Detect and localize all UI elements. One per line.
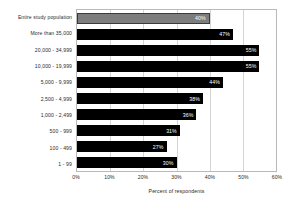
category-label: More than 35,000 bbox=[0, 25, 76, 41]
bar-value-label: 47% bbox=[219, 31, 233, 37]
bar-value-label: 38% bbox=[189, 96, 203, 102]
bar: 30% bbox=[77, 157, 177, 168]
category-label: 10,000 - 19,999 bbox=[0, 58, 76, 74]
x-axis-tick: 40% bbox=[205, 174, 216, 180]
bar-row: 40% bbox=[77, 10, 276, 26]
x-axis-title: Percent of respondents bbox=[76, 188, 277, 194]
category-label: Entire study population bbox=[0, 9, 76, 25]
plot-area: 40%47%55%55%44%38%36%31%27%30% bbox=[76, 9, 277, 172]
bar-row: 27% bbox=[77, 139, 276, 155]
category-label: 5,000 - 9,999 bbox=[0, 74, 76, 90]
bar-row: 55% bbox=[77, 58, 276, 74]
x-axis-tick: 50% bbox=[238, 174, 249, 180]
bar: 27% bbox=[77, 141, 167, 152]
bar: 40% bbox=[77, 13, 210, 24]
category-label: 20,000 - 34,999 bbox=[0, 42, 76, 58]
bar-row: 30% bbox=[77, 155, 276, 171]
bar-row: 44% bbox=[77, 74, 276, 90]
bar-value-label: 55% bbox=[246, 63, 260, 69]
bar-row: 38% bbox=[77, 90, 276, 106]
x-axis-tick: 60% bbox=[272, 174, 283, 180]
category-label: 2,500 - 4,999 bbox=[0, 90, 76, 106]
bar: 55% bbox=[77, 61, 259, 72]
category-axis-labels: Entire study populationMore than 35,0002… bbox=[0, 9, 76, 172]
bar-value-label: 36% bbox=[183, 112, 197, 118]
bar-row: 31% bbox=[77, 123, 276, 139]
bar-value-label: 40% bbox=[195, 15, 209, 21]
x-axis-tick: 0% bbox=[72, 174, 80, 180]
bar-row: 55% bbox=[77, 42, 276, 58]
bar-series: 40%47%55%55%44%38%36%31%27%30% bbox=[77, 10, 276, 171]
bar-chart: Entire study populationMore than 35,0002… bbox=[0, 0, 294, 209]
bar: 55% bbox=[77, 45, 259, 56]
bar: 47% bbox=[77, 29, 233, 40]
x-axis-tick: 30% bbox=[171, 174, 182, 180]
bar: 31% bbox=[77, 125, 180, 136]
category-label: 100 - 499 bbox=[0, 139, 76, 155]
bar-value-label: 55% bbox=[246, 47, 260, 53]
x-axis-tick: 20% bbox=[138, 174, 149, 180]
category-label: 1,000 - 2,499 bbox=[0, 107, 76, 123]
x-axis-tick-labels: 0%10%20%30%40%50%60% bbox=[76, 174, 277, 183]
bar-value-label: 44% bbox=[209, 79, 223, 85]
category-label: 500 - 999 bbox=[0, 123, 76, 139]
x-axis-tick: 10% bbox=[104, 174, 115, 180]
bar: 38% bbox=[77, 93, 203, 104]
bar-row: 47% bbox=[77, 26, 276, 42]
bar-value-label: 27% bbox=[153, 144, 167, 150]
bar: 44% bbox=[77, 77, 223, 88]
bar-value-label: 31% bbox=[166, 128, 180, 134]
bar-value-label: 30% bbox=[163, 160, 177, 166]
bar-row: 36% bbox=[77, 107, 276, 123]
bar: 36% bbox=[77, 109, 196, 120]
category-label: 1 - 99 bbox=[0, 156, 76, 172]
